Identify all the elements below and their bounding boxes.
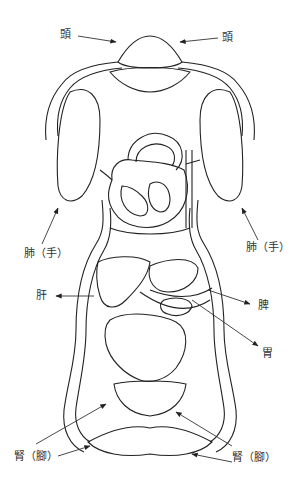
intestines bbox=[105, 314, 186, 381]
left-lung bbox=[57, 90, 100, 201]
label-lung-left: 肺（手） bbox=[24, 248, 68, 260]
liver bbox=[97, 257, 150, 307]
label-lung-right: 肺（手） bbox=[246, 242, 290, 254]
label-head-right: 頭 bbox=[222, 32, 233, 44]
label-head-left: 頭 bbox=[60, 29, 71, 41]
label-spleen: 脾 bbox=[258, 300, 269, 312]
heart bbox=[100, 133, 200, 228]
kidneys bbox=[114, 381, 186, 416]
right-lung bbox=[200, 90, 243, 201]
spleen-stomach bbox=[140, 260, 212, 316]
legs-capillaries bbox=[88, 427, 212, 456]
label-kidney-right: 腎（腳） bbox=[232, 452, 276, 464]
torso-vessels bbox=[64, 200, 237, 452]
label-pointers bbox=[36, 36, 258, 462]
head-capillaries bbox=[110, 36, 190, 92]
label-kidney-left: 腎（腳） bbox=[14, 451, 58, 463]
label-stomach: 胃 bbox=[262, 348, 273, 360]
upper-vessels bbox=[46, 62, 255, 140]
label-liver: 肝 bbox=[36, 290, 47, 302]
